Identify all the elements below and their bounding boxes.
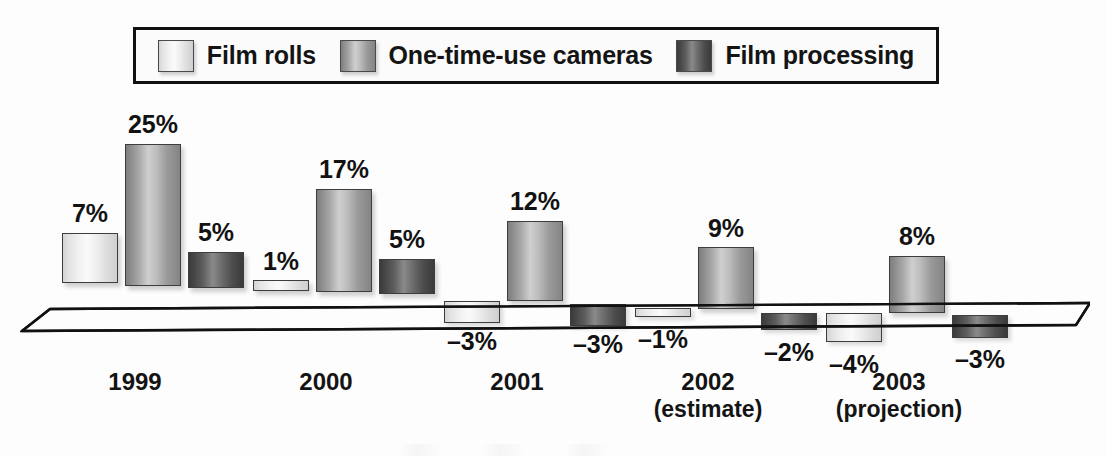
plot-area: 7% 25% 5% 1% 17% 5% [0,96,1106,456]
bar-value-2002-film-rolls: –1% [618,325,708,354]
legend-label-film-processing: Film processing [725,41,914,70]
category-year-2003: 2003 [872,368,925,395]
legend-item-one-time-use-cameras: One-time-use cameras [340,40,653,72]
bar-value-2000-one-time-use-cameras: 17% [299,155,389,184]
bar-2003-film-rolls [826,313,882,342]
bar-2001-film-rolls [444,301,500,323]
cropped-caption-remnant [398,444,718,456]
bar-value-1999-film-rolls: 7% [45,199,135,228]
bar-chart: Film rolls One-time-use cameras Film pro… [0,0,1106,456]
bar-2002-film-rolls [635,308,691,317]
bar-2002-one-time-use-cameras [698,247,754,309]
bar-2000-film-rolls [253,280,309,291]
bar-1999-one-time-use-cameras [125,144,181,286]
bar-group-1999: 7% 25% 5% [62,96,252,396]
legend-item-film-rolls: Film rolls [158,40,316,72]
bar-2001-one-time-use-cameras [507,221,563,301]
bar-value-2000-film-rolls: 1% [236,247,326,276]
bar-1999-film-rolls [62,233,118,283]
bar-group-2000: 1% 17% 5% [253,96,443,396]
bar-value-2003-one-time-use-cameras: 8% [872,222,962,251]
legend-item-film-processing: Film processing [676,40,914,72]
legend-label-film-rolls: Film rolls [207,41,316,70]
bar-2001-film-processing [570,304,626,326]
bar-group-2003: –4% 8% –3% [826,96,1016,396]
category-year-1999: 1999 [108,368,161,395]
bar-group-2002: –1% 9% –2% [635,96,825,396]
bar-group-2001: –3% 12% –3% [444,96,634,396]
legend-swatch-one-time-use-cameras-icon [340,40,376,72]
chart-legend: Film rolls One-time-use cameras Film pro… [133,27,939,84]
bar-value-1999-one-time-use-cameras: 25% [108,110,198,139]
bar-2003-film-processing [952,315,1008,338]
category-year-2002: 2002 [681,368,734,395]
category-label-2003: 2003 (projection) [799,368,999,423]
bar-2000-film-processing [379,259,435,294]
category-label-2000: 2000 [226,368,426,396]
category-year-2000: 2000 [299,368,352,395]
bar-value-2001-one-time-use-cameras: 12% [490,187,580,216]
category-label-1999: 1999 [35,368,235,396]
legend-label-one-time-use-cameras: One-time-use cameras [389,41,653,70]
bar-2003-one-time-use-cameras [889,256,945,313]
bar-2002-film-processing [761,313,817,330]
bar-value-1999-film-processing: 5% [171,218,261,247]
bar-value-2001-film-rolls: –3% [427,327,517,356]
category-label-2001: 2001 [417,368,617,396]
category-label-2002: 2002 (estimate) [608,368,808,423]
legend-swatch-film-processing-icon [676,40,712,72]
category-note-2003: (projection) [799,396,999,423]
category-year-2001: 2001 [490,368,543,395]
category-note-2002: (estimate) [608,396,808,423]
legend-swatch-film-rolls-icon [158,40,194,72]
bar-value-2002-one-time-use-cameras: 9% [681,214,771,243]
bar-value-2000-film-processing: 5% [362,225,452,254]
